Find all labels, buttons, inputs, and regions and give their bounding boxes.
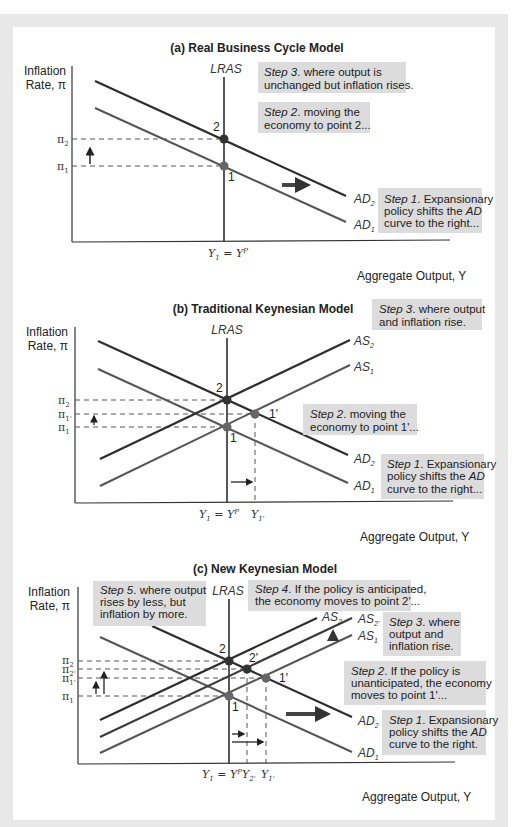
panel-a-x-label: Aggregate Output, Y (357, 269, 466, 283)
panel-b-point-1p-label: 1' (269, 407, 278, 421)
panel-b-step3-callout: Step 3. where output and inflation rise. (372, 299, 486, 330)
panel-a-title: (a) Real Business Cycle Model (170, 41, 343, 55)
panel-b: (b) Traditional Keynesian Model Inflatio… (26, 299, 497, 544)
panel-b-point-2-label: 2 (216, 381, 223, 395)
svg-text:output and: output and (389, 628, 443, 640)
panel-c-ad2-label: AD2 (357, 714, 379, 729)
svg-text:policy shifts the AD: policy shifts the AD (389, 726, 487, 738)
panel-b-as1-label: AS1 (353, 360, 374, 375)
panel-b-pi1-tick: π1 (58, 421, 70, 436)
svg-text:curve to the right...: curve to the right... (387, 483, 482, 495)
panel-a-point-1-label: 1 (228, 170, 235, 184)
panel-b-ad1-label: AD1 (353, 479, 375, 494)
panel-c-point-2p-label: 2' (249, 651, 258, 665)
panel-b-as2-label: AS2 (353, 334, 374, 349)
svg-text:Step 3. where output: Step 3. where output (379, 303, 486, 315)
panel-c-x-tick-2: Y2' (242, 768, 256, 783)
panel-c-point-1-label: 1 (232, 700, 239, 714)
panel-c-as1-label: AS1 (357, 629, 378, 644)
svg-text:Step 2. If the policy is: Step 2. If the policy is (351, 665, 461, 677)
panel-a-y-label-line1: Inflation (24, 64, 66, 78)
panel-c-y-label-line2: Rate, π (30, 599, 70, 613)
panel-a-point-2 (220, 135, 229, 144)
svg-text:unanticipated, the economy: unanticipated, the economy (351, 677, 492, 689)
panel-b-pi2-tick: π2 (58, 394, 70, 409)
panel-b-point-2 (223, 396, 232, 405)
panel-b-x-label: Aggregate Output, Y (360, 530, 469, 544)
svg-text:Step 1. Expansionary: Step 1. Expansionary (387, 458, 497, 470)
panel-c-step1-callout: Step 1. Expansionary policy shifts the A… (382, 710, 499, 755)
panel-a-point-2-label: 2 (213, 120, 220, 134)
svg-text:unchanged but inflation rises.: unchanged but inflation rises. (264, 79, 414, 91)
panel-b-step1-callout: Step 1. Expansionary policy shifts the A… (381, 454, 497, 499)
panel-c-title: (c) New Keynesian Model (193, 562, 337, 576)
panel-c-as2-label: AS2 (321, 610, 342, 625)
panel-a-pi2-tick: π2 (57, 133, 69, 148)
panel-c-ad2-curve (152, 626, 352, 717)
svg-text:the economy moves to point 2'.: the economy moves to point 2'... (255, 595, 420, 607)
svg-text:moves to point 1'...: moves to point 1'... (351, 689, 447, 701)
panel-c-step3-callout: Step 3. where output and inflation rise. (383, 612, 461, 656)
panel-b-x-tick-1: Y1 = YP (199, 508, 239, 523)
panel-a-ad1-label: AD1 (353, 218, 375, 233)
svg-text:and inflation rise.: and inflation rise. (379, 316, 466, 328)
panel-b-y-label-line1: Inflation (26, 325, 68, 339)
panel-a-x-tick: Y1 = YP (208, 247, 248, 262)
panel-c-point-1p (262, 674, 271, 683)
svg-text:Step 5. where output: Step 5. where output (100, 584, 207, 596)
panel-c-x-tick-3: Y1' (261, 768, 275, 783)
svg-text:Step 4. If the policy is antic: Step 4. If the policy is anticipated, (255, 583, 426, 595)
panel-b-ad2-label: AD2 (353, 452, 375, 467)
panel-c-pi1-tick: π1 (62, 690, 74, 705)
svg-text:curve to the right.: curve to the right. (389, 738, 478, 750)
panel-b-step2-callout: Step 2. moving the economy to point 1'..… (303, 404, 419, 435)
panel-a-y-label-line2: Rate, π (26, 78, 66, 92)
svg-text:Step 2. moving the: Step 2. moving the (264, 106, 360, 118)
svg-text:Step 1. Expansionary: Step 1. Expansionary (384, 193, 494, 205)
svg-text:inflation rise.: inflation rise. (389, 640, 454, 652)
svg-text:Step 1. Expansionary: Step 1. Expansionary (389, 714, 499, 726)
panel-c-lras-label: LRAS (212, 584, 243, 598)
panel-c-y-label-line1: Inflation (28, 585, 70, 599)
panel-b-lras-label: LRAS (211, 323, 242, 337)
panel-b-x-axis (75, 501, 453, 503)
panel-b-x-tick-2: Y1' (251, 508, 265, 523)
svg-text:inflation by more.: inflation by more. (100, 608, 188, 620)
panel-a-pi1-tick: π1 (57, 160, 69, 175)
svg-text:policy shifts the AD: policy shifts the AD (387, 470, 485, 482)
panel-a-lras-label: LRAS (210, 62, 241, 76)
svg-text:economy to point 2...: economy to point 2... (264, 119, 371, 131)
panel-b-y-label-line2: Rate, π (28, 339, 68, 353)
panel-a-ad2-label: AD2 (353, 192, 375, 207)
panel-b-point-1-label: 1 (230, 431, 237, 445)
panel-c-x-label: Aggregate Output, Y (362, 790, 471, 804)
panel-a: (a) Real Business Cycle Model Inflation … (24, 41, 494, 283)
svg-text:Step 3. where: Step 3. where (389, 616, 460, 628)
svg-text:Step 3. where output is: Step 3. where output is (264, 66, 382, 78)
panel-a-x-axis (72, 240, 450, 242)
svg-text:rises by less, but: rises by less, but (100, 596, 186, 608)
panel-c: (c) New Keynesian Model Inflation Rate, … (28, 562, 499, 804)
panel-c-as2p-curve (100, 618, 352, 737)
panel-c-ad1-label: AD1 (357, 746, 379, 761)
panel-a-step2-callout: Step 2. moving the economy to point 2... (258, 102, 371, 133)
panel-c-point-2p (243, 665, 252, 674)
panel-c-step2-callout: Step 2. If the policy is unanticipated, … (344, 661, 492, 705)
panel-c-point-2 (225, 657, 234, 666)
svg-text:economy to point 1'...: economy to point 1'... (310, 421, 419, 433)
panel-c-point-1p-label: 1' (279, 671, 288, 685)
panel-c-x-tick-1: Y1 = YP (202, 768, 242, 783)
panel-c-point-2-label: 2 (219, 642, 226, 656)
svg-text:Step 2. moving the: Step 2. moving the (310, 408, 406, 420)
figure-svg: (a) Real Business Cycle Model Inflation … (0, 0, 523, 827)
svg-text:policy shifts the AD: policy shifts the AD (384, 205, 482, 217)
svg-text:curve to the right...: curve to the right... (384, 217, 479, 229)
panel-b-title: (b) Traditional Keynesian Model (173, 302, 354, 316)
panel-a-step1-callout: Step 1. Expansionary policy shifts the A… (378, 188, 494, 233)
panel-c-as2p-label: AS2' (357, 612, 380, 627)
panel-c-step5-callout: Step 5. where output rises by less, but … (93, 581, 207, 626)
panel-a-step3-callout: Step 3. where output is unchanged but in… (258, 62, 414, 93)
panel-c-step4-callout: Step 4. If the policy is anticipated, th… (248, 580, 426, 611)
panel-b-point-1p (251, 410, 260, 419)
